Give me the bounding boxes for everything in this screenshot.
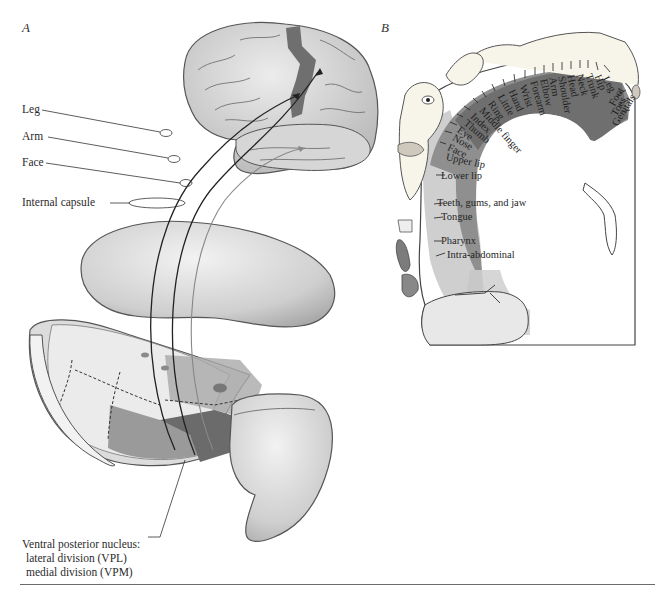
label-tongue: Tongue <box>441 212 472 223</box>
label-leg: Leg <box>22 104 40 116</box>
label-lower-lip: Lower lip <box>441 171 482 182</box>
label-teeth-gums-jaw: Teeth, gums, and jaw <box>437 198 526 209</box>
label-internal-capsule: Internal capsule <box>22 197 95 209</box>
vp-lateral: lateral division (VPL) <box>22 551 140 565</box>
vp-medial: medial division (VPM) <box>22 565 140 579</box>
caption-divider <box>20 584 655 585</box>
ventral-posterior-nucleus-label: Ventral posterior nucleus: lateral divis… <box>22 537 140 579</box>
vp-title: Ventral posterior nucleus: <box>22 537 140 551</box>
label-face: Face <box>22 157 44 169</box>
thalamus-illustration <box>29 221 334 541</box>
label-intra-abdominal: Intra-abdominal <box>447 250 515 261</box>
label-arm: Arm <box>22 131 43 143</box>
cerebral-hemisphere <box>184 23 378 174</box>
label-pharynx: Pharynx <box>441 236 476 247</box>
